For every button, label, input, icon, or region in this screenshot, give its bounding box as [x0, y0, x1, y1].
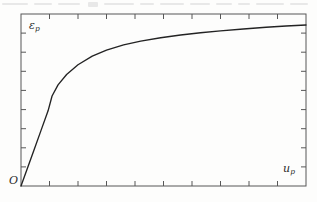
y-axis-ticks-right — [301, 33, 306, 167]
data-curve — [21, 25, 306, 186]
x-axis-subscript: p — [290, 167, 295, 176]
y-axis-ticks-left — [21, 33, 26, 167]
figure-container: εp up O — [0, 0, 317, 202]
plot-frame — [21, 14, 306, 186]
x-axis-label: up — [283, 163, 295, 174]
x-axis-ticks-bottom — [50, 181, 278, 186]
plot-area — [0, 0, 317, 202]
y-axis-label: εp — [29, 20, 40, 31]
x-axis-ticks-top — [50, 14, 278, 19]
y-axis-subscript: p — [35, 24, 40, 33]
origin-label: O — [9, 175, 18, 186]
